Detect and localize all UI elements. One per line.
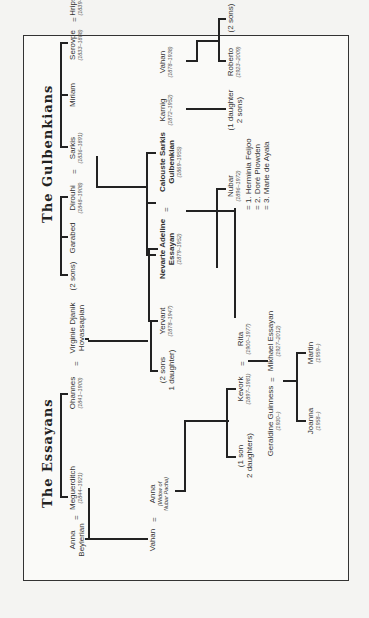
- person-2-sons-gulbenkian: (2 sons): [68, 258, 77, 294]
- person-hripsime: Hripsimé(1839–1888): [68, 0, 84, 20]
- marriage-symbol: =: [72, 515, 81, 520]
- person-kevork: Kevork(1897–1981): [236, 368, 252, 410]
- person-karnig: Karnig(1872–1952): [158, 90, 174, 130]
- person-ohannes: Ohannes(1841–1900): [68, 368, 84, 418]
- nubar-spouse-3: = 3. Marie de Ayala: [262, 138, 271, 210]
- person-meguerditch: Meguerditch(1844–1921): [68, 462, 84, 514]
- person-2-sons-roberto: (2 sons): [226, 2, 235, 34]
- person-1-daughter-2-sons: (1 daughter 2 sons): [226, 86, 244, 134]
- marriage-symbol: =: [150, 517, 159, 522]
- nubar-spouse-1: = 1. Herminia Feijoo: [244, 138, 253, 210]
- person-roberto: Roberto(1923–2009): [226, 42, 242, 82]
- gulbenkians-title: The Gulbenkians: [40, 85, 55, 223]
- person-anna-beylerian: Anna Beylerian: [68, 520, 86, 560]
- person-nevarte: Nevarte Adeline Essayan(1879–1952): [158, 216, 183, 282]
- essayans-title: The Essayans: [40, 398, 55, 508]
- person-rita: Rita(1900–1977): [236, 318, 252, 360]
- marriage-symbol: =: [70, 169, 79, 174]
- person-joanna: Joanna(1958–): [306, 402, 322, 440]
- person-geraldine-guinness: Geraldine Guinness(1930–): [266, 384, 282, 458]
- person-miriam: Miriam: [68, 78, 77, 112]
- person-yervant: Yervant(1878–1947): [158, 300, 174, 342]
- nubar-spouse-2: = 2. Doré Plowden: [253, 138, 262, 210]
- person-sarkis: Sarkis(1836–1891): [68, 128, 84, 168]
- person-martin: Martin(1959–): [306, 334, 322, 372]
- marriage-symbol: =: [162, 207, 171, 212]
- person-vahan-gulbenkian: Vahan(1878–1938): [158, 42, 174, 82]
- person-anna-widow: Anna(Widow of Nubar Pacha): [148, 474, 169, 514]
- person-mikhael-essayan: Mikhael Essayan(1927–2012): [266, 308, 282, 374]
- family-tree-diagram: The Essayans The Gulbenkians Anna Beyler…: [0, 0, 369, 618]
- person-calouste-gulbenkian: Calouste Sarkis Gulbenkian(1869–1955): [158, 132, 183, 192]
- person-nubar: Nubar(1896–1972): [226, 166, 242, 206]
- person-dirouhi: Dirouhi(1848–1908): [68, 176, 84, 220]
- nubar-spouses-list: = 1. Herminia Feijoo = 2. Doré Plowden =…: [244, 138, 271, 210]
- marriage-symbol: =: [238, 361, 247, 366]
- person-1-son-2-daughters: (1 son 2 daughters): [236, 434, 254, 478]
- marriage-symbol: =: [268, 377, 277, 382]
- person-vahan-essayan: Vahan: [148, 526, 157, 554]
- person-virginie: Virginie Djanik Hovassapian: [68, 296, 86, 360]
- marriage-symbol: =: [72, 361, 81, 366]
- person-2-sons-1-daughter: (2 sons 1 daughter): [158, 348, 176, 392]
- person-serovpe: Serovpe(1833–1888): [68, 24, 84, 66]
- person-garabed: Garabed: [68, 220, 77, 256]
